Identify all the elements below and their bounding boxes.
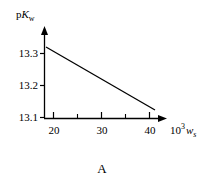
plot-area	[0, 0, 204, 184]
y-axis-title-symbol: K	[22, 8, 29, 20]
data-series-line	[46, 47, 155, 110]
y-tick-label-3: 13.3	[8, 48, 38, 59]
y-tick-label-1: 13.1	[8, 112, 38, 123]
y-axis-title: pKw	[16, 9, 35, 23]
x-axis-title-exponent: 3	[181, 122, 185, 131]
x-axis-title-subscript: s	[193, 130, 196, 139]
x-axis	[44, 115, 167, 122]
figure-panel-a: pKw 103ws 13.3 13.2 13.1 20 30 40 A	[0, 0, 204, 184]
x-tick-label-1: 20	[41, 125, 67, 136]
y-tick-label-2: 13.2	[8, 80, 38, 91]
x-axis-title-base: 10	[170, 124, 181, 136]
figure-caption: A	[0, 162, 204, 175]
x-tick-label-2: 30	[89, 125, 115, 136]
x-tick-label-3: 40	[137, 125, 163, 136]
y-axis	[41, 26, 48, 118]
y-axis-title-subscript: w	[29, 14, 35, 23]
x-axis-title: 103ws	[170, 123, 196, 139]
